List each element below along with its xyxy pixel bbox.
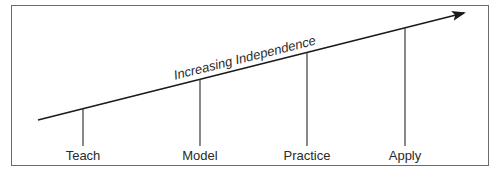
stage-label-model: Model <box>182 148 217 163</box>
stage-label-teach: Teach <box>66 148 101 163</box>
stage-label-practice: Practice <box>284 148 331 163</box>
independence-arrow <box>38 13 464 120</box>
stage-label-apply: Apply <box>389 148 422 163</box>
